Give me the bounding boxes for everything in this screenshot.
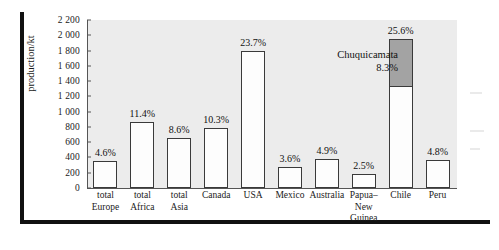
y-tick-label: 1 800 <box>58 46 80 56</box>
y-tick-mark <box>87 142 91 143</box>
y-tick-mark <box>87 172 91 173</box>
bar-value-label: 4.8% <box>412 146 464 157</box>
bar[interactable] <box>426 160 450 188</box>
bar-group[interactable]: 4.8% <box>426 20 450 188</box>
bar-group[interactable]: 23.7% <box>241 20 265 188</box>
y-tick-mark <box>87 81 91 82</box>
y-tick-mark <box>87 50 91 51</box>
bar[interactable] <box>167 138 191 188</box>
y-tick-mark <box>87 96 91 97</box>
bar-group[interactable]: 10.3% <box>204 20 228 188</box>
y-tick-mark <box>87 126 91 127</box>
production-bar-chart: production/kt 02004006008001 0001 2001 4… <box>0 0 499 250</box>
x-tick-label-line: Guinea <box>341 213 386 225</box>
bar[interactable] <box>315 159 339 188</box>
bar-group[interactable]: 25.6% <box>389 20 413 188</box>
annotation-name: Chuquicamata <box>312 48 398 61</box>
y-tick-label: 1 400 <box>58 76 80 86</box>
y-axis-title: production/kt <box>25 4 36 124</box>
y-tick-label: 1 600 <box>58 61 80 71</box>
bar-group[interactable]: 4.9% <box>315 20 339 188</box>
bar-group[interactable]: 11.4% <box>130 20 154 188</box>
bar-group[interactable]: 8.6% <box>167 20 191 188</box>
y-tick-label: 800 <box>65 122 80 132</box>
y-tick-label: 2 200 <box>58 15 80 25</box>
bar[interactable] <box>241 51 265 188</box>
annotation-value: 8.3% <box>312 61 398 74</box>
bar-value-label: 25.6% <box>375 25 427 36</box>
bars-container: 4.6%11.4%8.6%10.3%23.7%3.6%4.9%2.5%25.6%… <box>87 20 456 188</box>
bar-group[interactable]: 4.6% <box>93 20 117 188</box>
bar[interactable] <box>352 174 376 189</box>
bar-value-label: 10.3% <box>190 114 242 125</box>
y-tick-label: 2 000 <box>58 30 80 40</box>
bar-value-label: 4.9% <box>301 145 353 156</box>
y-tick-mark <box>87 188 91 189</box>
y-tick-label: 1 200 <box>58 91 80 101</box>
bar[interactable] <box>278 167 302 188</box>
y-tick-label: 600 <box>65 137 80 147</box>
y-tick-mark <box>87 157 91 158</box>
bar[interactable] <box>204 128 228 188</box>
x-tick-label-line: Peru <box>415 190 460 202</box>
x-axis-tick-labels: totalEuropetotalAfricatotalAsiaCanadaUSA… <box>87 190 456 242</box>
page-bleed-mark <box>470 130 484 132</box>
page-bleed-mark <box>470 92 482 94</box>
y-tick-mark <box>87 35 91 36</box>
y-tick-label: 400 <box>65 152 80 162</box>
bar[interactable] <box>130 122 154 188</box>
y-tick-mark <box>87 20 91 21</box>
bar-group[interactable]: 3.6% <box>278 20 302 188</box>
bar-group[interactable]: 2.5% <box>352 20 376 188</box>
bar-value-label: 11.4% <box>116 108 168 119</box>
y-tick-mark <box>87 65 91 66</box>
chuquicamata-annotation: Chuquicamata 8.3% <box>312 48 398 74</box>
x-tick-label-line: Asia <box>157 202 202 214</box>
bar-value-label: 2.5% <box>338 160 390 171</box>
x-tick-label: Peru <box>415 190 460 202</box>
page-bleed-mark <box>470 148 480 150</box>
y-tick-label: 1 000 <box>58 107 80 117</box>
y-tick-mark <box>87 111 91 112</box>
bar-value-label: 23.7% <box>227 37 279 48</box>
x-tick-label-line: New <box>341 202 386 214</box>
bar[interactable] <box>93 161 117 188</box>
y-tick-label: 200 <box>65 168 80 178</box>
y-tick-label: 0 <box>75 183 80 193</box>
y-axis-tick-labels: 02004006008001 0001 2001 4001 6001 8002 … <box>40 20 86 188</box>
bar-value-label: 8.6% <box>153 124 205 135</box>
